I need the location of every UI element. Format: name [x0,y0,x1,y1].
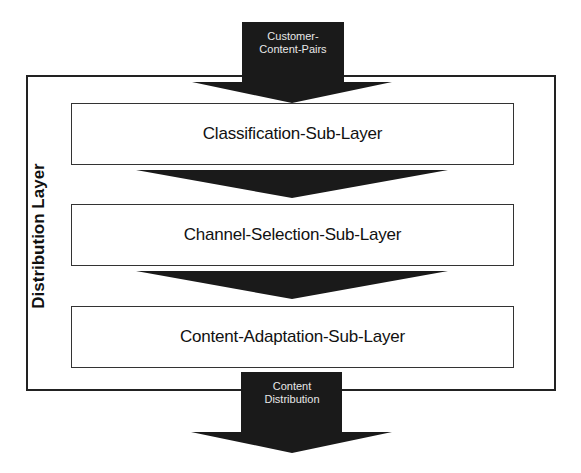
arrow-down-icon [136,170,448,198]
input-arrow-label: Customer- Content-Pairs [242,30,344,56]
sublayer-content-adaptation: Content-Adaptation-Sub-Layer [71,306,514,368]
arrow-down-icon [136,271,448,299]
output-arrow-label: Content Distribution [241,380,343,406]
sublayer-classification: Classification-Sub-Layer [71,103,514,165]
sublayer-channel-selection: Channel-Selection-Sub-Layer [71,204,514,266]
